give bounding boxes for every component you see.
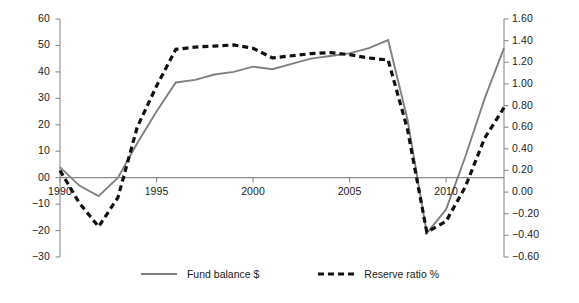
y-axis-right-tick-label: −0.20 (512, 207, 554, 219)
y-axis-right-tick-label: 0.80 (512, 99, 554, 111)
y-axis-left-tick-label: 50 (16, 38, 50, 50)
x-axis-tick-label: 1990 (40, 185, 80, 197)
y-axis-right-tick-label: −0.40 (512, 228, 554, 240)
y-axis-right-tick-label: 1.40 (512, 34, 554, 46)
y-axis-right-tick-label: 0.60 (512, 120, 554, 132)
y-axis-left-tick-label: 60 (16, 12, 50, 24)
y-axis-left-tick-label: 10 (16, 144, 50, 156)
y-axis-right-tick-label: 1.20 (512, 55, 554, 67)
y-axis-left-tick-label: 20 (16, 118, 50, 130)
legend-swatch-dashed-icon (317, 269, 355, 279)
y-axis-right-tick-label: −0.60 (512, 250, 554, 262)
y-axis-left-tick-label: −10 (16, 197, 50, 209)
chart-container: −30−20−1000102030405060−0.60−0.40−0.200.… (0, 0, 579, 303)
series-line-1 (60, 45, 504, 232)
y-axis-right-tick-label: 1.60 (512, 12, 554, 24)
legend-item[interactable]: Fund balance $ (140, 268, 259, 280)
legend-swatch-solid-icon (140, 269, 178, 279)
x-axis-tick-label: 1995 (137, 185, 177, 197)
x-axis-tick-label: 2005 (330, 185, 370, 197)
y-axis-right-tick-label: 0.40 (512, 142, 554, 154)
y-axis-left-tick-label: 00 (16, 171, 50, 183)
y-axis-right-tick-label: 0.20 (512, 163, 554, 175)
series-line-0 (60, 40, 504, 233)
legend-item[interactable]: Reserve ratio % (317, 268, 439, 280)
y-axis-left-tick-label: 30 (16, 91, 50, 103)
y-axis-left-tick-label: 40 (16, 65, 50, 77)
legend-label: Fund balance $ (187, 268, 259, 280)
chart-legend: Fund balance $Reserve ratio % (0, 268, 579, 280)
legend-label: Reserve ratio % (364, 268, 439, 280)
y-axis-right-tick-label: 0.00 (512, 185, 554, 197)
chart-plot-area (0, 0, 579, 303)
x-axis-tick-label: 2010 (426, 185, 466, 197)
y-axis-left-tick-label: −20 (16, 224, 50, 236)
y-axis-right-tick-label: 1.00 (512, 77, 554, 89)
y-axis-left-tick-label: −30 (16, 250, 50, 262)
x-axis-tick-label: 2000 (233, 185, 273, 197)
